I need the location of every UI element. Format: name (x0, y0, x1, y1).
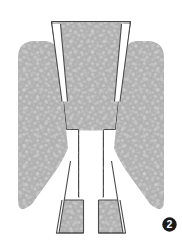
specimen-illustration (0, 0, 182, 252)
figure-number-badge: 2 (162, 217, 177, 232)
gap-below-figure (0, 235, 182, 252)
gap-bottom-leg (84, 198, 98, 235)
gap-central-vertical-slot (80, 131, 103, 199)
figure-panel: Figure 2 (0, 0, 182, 252)
badge-number: 2 (167, 218, 173, 230)
